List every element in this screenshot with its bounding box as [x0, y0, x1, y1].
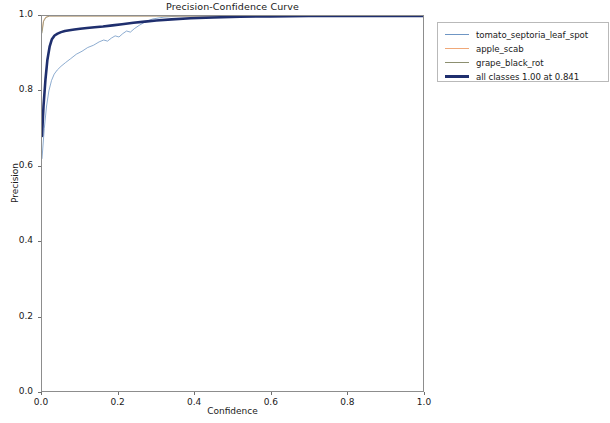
- curves-svg: [42, 16, 423, 391]
- legend-item[interactable]: apple_scab: [438, 42, 608, 55]
- y-tick-mark: [38, 90, 41, 91]
- series-line: [42, 16, 423, 33]
- y-tick-label: 0.4: [3, 235, 33, 245]
- x-axis-label: Confidence: [41, 406, 424, 416]
- x-tick-mark: [271, 392, 272, 395]
- y-axis-label: Precision: [10, 138, 20, 228]
- legend-color-swatch: [445, 75, 469, 78]
- chart-title: Precision-Confidence Curve: [41, 1, 424, 12]
- y-tick-mark: [38, 241, 41, 242]
- legend-item-label: all classes 1.00 at 0.841: [476, 72, 579, 82]
- x-tick-mark: [347, 392, 348, 395]
- y-tick-label: 0.8: [3, 84, 33, 94]
- legend-item-label: grape_black_rot: [476, 58, 544, 68]
- series-line: [42, 16, 423, 136]
- legend-color-swatch: [445, 62, 469, 64]
- y-tick-mark: [38, 317, 41, 318]
- legend-color-swatch: [445, 48, 469, 50]
- x-tick-mark: [194, 392, 195, 395]
- x-tick-mark: [41, 392, 42, 395]
- legend-item[interactable]: all classes 1.00 at 0.841: [438, 70, 608, 83]
- legend-item[interactable]: tomato_septoria_leaf_spot: [438, 28, 608, 41]
- series-line: [42, 16, 423, 159]
- legend-color-swatch: [445, 34, 469, 36]
- legend-item[interactable]: grape_black_rot: [438, 56, 608, 69]
- legend-item-label: apple_scab: [476, 44, 524, 54]
- plot-area: [41, 15, 424, 392]
- x-tick-mark: [424, 392, 425, 395]
- legend-item-label: tomato_septoria_leaf_spot: [476, 30, 588, 40]
- chart-legend: tomato_septoria_leaf_spotapple_scabgrape…: [437, 22, 609, 82]
- y-tick-label: 0.2: [3, 311, 33, 321]
- precision-confidence-chart-figure: Precision-Confidence Curve 0.00.20.40.60…: [0, 0, 610, 423]
- y-tick-label: 0.0: [3, 386, 33, 396]
- y-tick-mark: [38, 166, 41, 167]
- y-tick-mark: [38, 15, 41, 16]
- y-tick-label: 1.0: [3, 9, 33, 19]
- x-tick-mark: [118, 392, 119, 395]
